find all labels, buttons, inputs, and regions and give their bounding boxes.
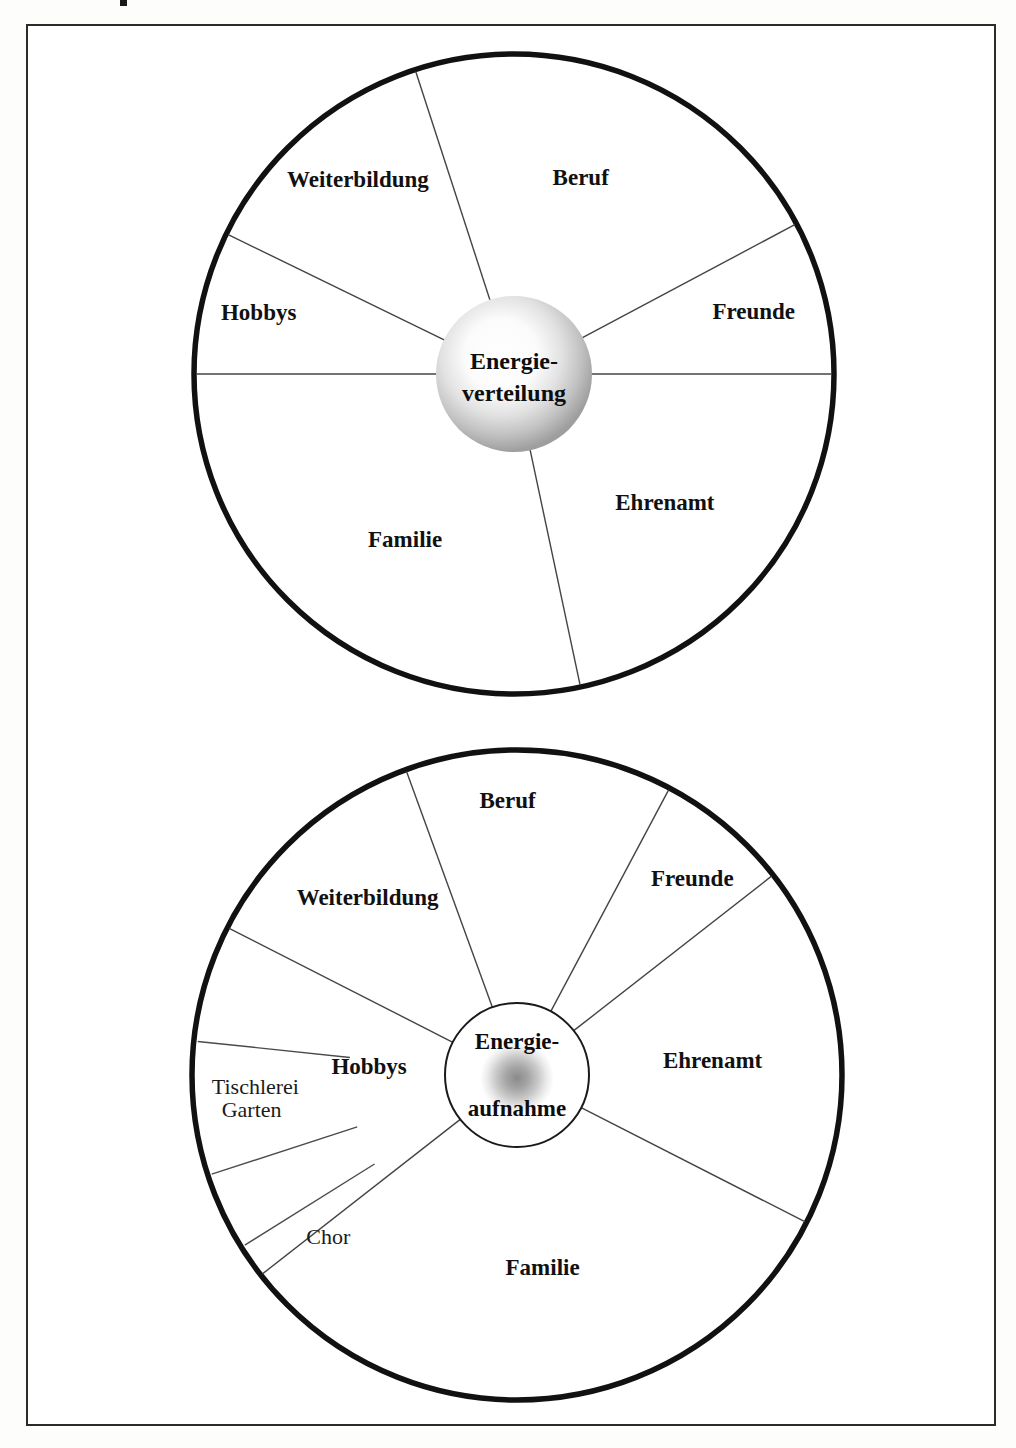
hub-label-line2: aufnahme [468, 1096, 566, 1121]
sub-sector-label-tischlerei: Tischlerei [212, 1074, 299, 1099]
page-frame-border: Energie- verteilung BerufFreundeEhrenamt… [26, 24, 996, 1426]
sector-label-freunde: Freunde [651, 866, 734, 891]
sector-label-familie: Familie [368, 527, 442, 552]
sector-label-familie: Familie [506, 1255, 580, 1280]
hub-label-line1: Energie- [475, 1029, 559, 1054]
hub-label-line1: Energie- [470, 348, 558, 374]
sector-label-ehrenamt: Ehrenamt [615, 490, 715, 515]
sector-label-ehrenamt: Ehrenamt [663, 1048, 763, 1073]
sector-label-hobbys: Hobbys [331, 1054, 406, 1079]
hub-label-line2: verteilung [462, 380, 566, 406]
sector-label-weiterbildung: Weiterbildung [297, 885, 439, 910]
sector-label-weiterbildung: Weiterbildung [287, 167, 429, 192]
scan-artifact-speck [120, 0, 127, 6]
sector-label-freunde: Freunde [712, 299, 795, 324]
sector-label-beruf: Beruf [479, 788, 536, 813]
energieaufnahme-wheel: Energie- aufnahme BerufFreundeEhrenamtFa… [28, 726, 998, 1426]
sector-label-beruf: Beruf [553, 165, 610, 190]
page-canvas: Energie- verteilung BerufFreundeEhrenamt… [0, 0, 1016, 1448]
sub-sector-label-garten: Garten [222, 1097, 282, 1122]
sector-label-hobbys: Hobbys [221, 300, 296, 325]
sub-sector-label-chor: Chor [306, 1224, 351, 1249]
energieverteilung-wheel: Energie- verteilung BerufFreundeEhrenamt… [28, 26, 998, 726]
hub-sphere-top [436, 296, 592, 452]
